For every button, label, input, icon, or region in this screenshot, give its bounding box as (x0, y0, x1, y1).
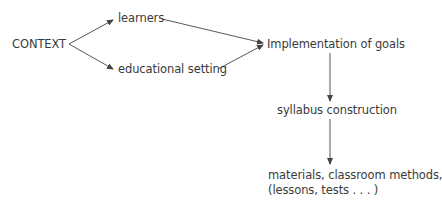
node-syllabus-construction: syllabus construction (277, 103, 397, 117)
edge-context-educational-setting (69, 44, 113, 69)
node-learners: learners (118, 11, 164, 25)
node-materials-line1: materials, classroom methods, (268, 168, 442, 182)
node-context: CONTEXT (12, 37, 66, 51)
node-materials-line2: (lessons, tests . . . ) (268, 183, 378, 197)
node-educational-setting: educational setting (118, 62, 227, 76)
edge-learners-implementation (162, 19, 263, 43)
edge-context-learners (69, 20, 113, 44)
node-implementation-of-goals: Implementation of goals (267, 37, 405, 51)
